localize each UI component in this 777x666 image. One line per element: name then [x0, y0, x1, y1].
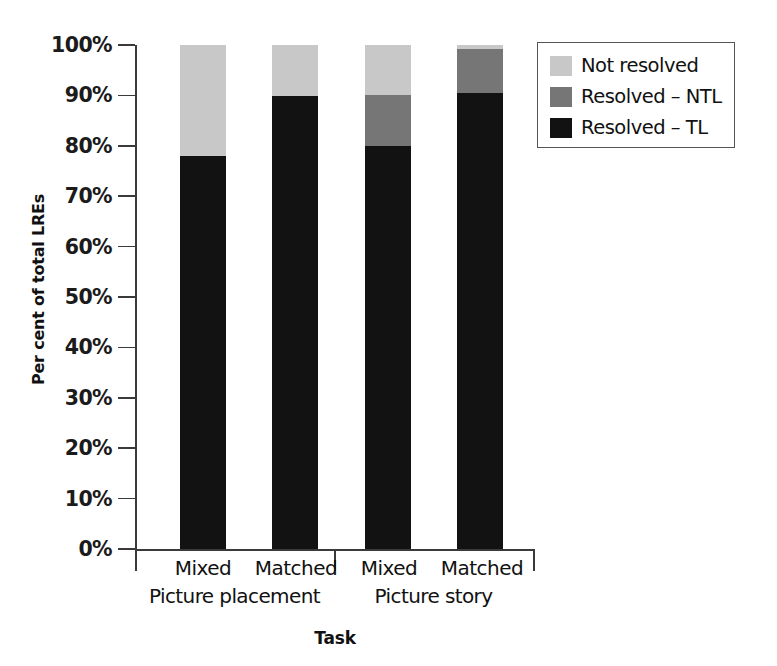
y-axis-tick-label: 10% [4, 487, 112, 511]
y-axis-tick-mark [118, 296, 135, 298]
y-axis-tick-mark [118, 397, 135, 399]
x-axis-group-tick-start [135, 549, 137, 571]
bar-segment [272, 45, 318, 96]
y-axis-tick-mark [118, 548, 135, 550]
bar-segment [180, 45, 226, 156]
y-axis-tick-label: 0% [4, 537, 112, 561]
legend-swatch-icon [550, 56, 572, 76]
y-axis-tick-mark [118, 95, 135, 97]
legend-swatch-icon [550, 87, 572, 107]
bar-segment [272, 96, 318, 549]
legend-item-2: Resolved – NTL [550, 81, 734, 112]
legend-item-1: Not resolved [550, 50, 734, 81]
y-axis-tick-label: 30% [4, 386, 112, 410]
legend-label: Resolved – TL [581, 116, 708, 139]
x-group-label-picture-story: Picture story [334, 584, 533, 608]
x-tick-label-mixed-story: Mixed [344, 556, 434, 580]
x-group-label-picture-placement: Picture placement [135, 584, 334, 608]
y-axis-tick-mark [118, 145, 135, 147]
plot-area [135, 45, 535, 549]
legend-swatch-icon [550, 118, 572, 138]
y-axis-tick-label: 40% [4, 335, 112, 359]
chart-legend: Not resolvedResolved – NTLResolved – TL [537, 42, 735, 148]
bar-segment [457, 93, 503, 549]
legend-label: Not resolved [581, 54, 698, 77]
bar-4 [457, 45, 503, 549]
bar-segment [365, 95, 411, 146]
bar-segment [365, 45, 411, 95]
bar-2 [272, 45, 318, 549]
x-tick-label-mixed-placement: Mixed [158, 556, 248, 580]
legend-item-3: Resolved – TL [550, 112, 734, 143]
y-axis-tick-mark [118, 347, 135, 349]
bar-segment [365, 146, 411, 549]
x-tick-label-matched-placement: Matched [246, 556, 346, 580]
bar-1 [180, 45, 226, 549]
y-axis-tick-mark [118, 246, 135, 248]
y-axis-tick-mark [118, 195, 135, 197]
y-axis-tick-mark [118, 447, 135, 449]
y-axis-tick-label: 100% [4, 33, 112, 57]
stacked-bar-chart: Per cent of total LREs 100%90%80%70%60%5… [0, 0, 777, 666]
legend-label: Resolved – NTL [581, 85, 722, 108]
y-axis-tick-label: 20% [4, 436, 112, 460]
x-tick-label-matched-story: Matched [432, 556, 532, 580]
y-axis-tick-mark [118, 44, 135, 46]
y-axis-tick-label: 70% [4, 184, 112, 208]
y-axis-tick-mark [118, 498, 135, 500]
x-axis-group-tick-end [533, 549, 535, 571]
bar-segment [457, 49, 503, 93]
bar-segment [180, 156, 226, 549]
y-axis-tick-label: 80% [4, 134, 112, 158]
y-axis-tick-label: 60% [4, 235, 112, 259]
y-axis-tick-label: 50% [4, 285, 112, 309]
bar-3 [365, 45, 411, 549]
y-axis-tick-label: 90% [4, 83, 112, 107]
x-axis-title: Task [135, 628, 535, 648]
